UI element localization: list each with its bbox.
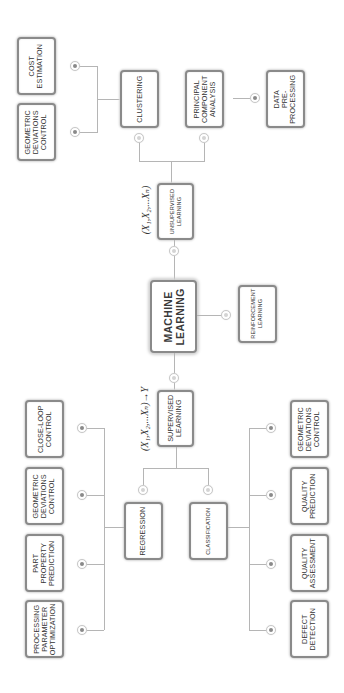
node-label: MACHINE LEARNING bbox=[162, 288, 186, 345]
connector-node-icon bbox=[77, 490, 87, 500]
node-label: QUALITY PREDICTION bbox=[301, 473, 317, 518]
node-part-property-prediction: PART PROPERTY PREDICTION bbox=[25, 534, 64, 592]
node-principal-component-analysis: PRINCIPAL COMPONENT ANALYSIS bbox=[185, 70, 224, 128]
node-label: GEOMETRIC DEVIATIONS CONTROL bbox=[24, 110, 49, 154]
node-cost-estimation: COST ESTIMATION bbox=[17, 37, 56, 95]
node-label: PART PROPERTY PREDICTION bbox=[32, 540, 57, 585]
connector-node-icon bbox=[266, 490, 276, 500]
connector-node-icon bbox=[70, 127, 80, 137]
node-label: CLOSE-LOOP CONTROL bbox=[36, 405, 52, 453]
supervised-formula: (X₁,X₂,...Xₙ)→Y bbox=[139, 381, 153, 457]
node-defect-detection: DEFECT DETECTION bbox=[290, 600, 329, 658]
connector-node-icon bbox=[134, 133, 144, 143]
node-geometric-deviations-control-classification: GEOMETRIC DEVIATIONS CONTROL bbox=[290, 400, 329, 458]
connector bbox=[139, 143, 140, 161]
node-machine-learning: MACHINE LEARNING bbox=[150, 280, 197, 353]
node-close-loop-control: CLOSE-LOOP CONTROL bbox=[25, 400, 64, 458]
connector-node-icon bbox=[199, 133, 209, 143]
node-quality-assessment: QUALITY ASSESSMENT bbox=[290, 534, 329, 592]
connector-node-icon bbox=[250, 93, 260, 103]
connector-node-icon bbox=[169, 373, 179, 383]
node-label: UNSUPERVISED LEARNING bbox=[169, 189, 182, 234]
connector bbox=[174, 353, 175, 390]
connector bbox=[249, 428, 250, 630]
ml-taxonomy-diagram: COST ESTIMATION GEOMETRIC DEVIATIONS CON… bbox=[0, 0, 344, 693]
connector bbox=[104, 527, 124, 528]
connector-node-icon bbox=[77, 559, 87, 569]
node-unsupervised-learning: UNSUPERVISED LEARNING bbox=[157, 183, 194, 240]
connector-node-icon bbox=[266, 559, 276, 569]
node-data-pre-processing: DATA PRE- PROCESSING bbox=[266, 70, 305, 128]
connector-node-icon bbox=[70, 61, 80, 71]
node-classification: CLASSIFICATION bbox=[189, 502, 228, 560]
node-label: SUPERVISED LEARNING bbox=[167, 395, 183, 442]
node-geometric-deviations-control-regression: GEOMETRIC DEVIATIONS CONTROL bbox=[25, 467, 64, 525]
connector-node-icon bbox=[77, 625, 87, 635]
connector-node-icon bbox=[138, 485, 148, 495]
connector-node-icon bbox=[221, 310, 231, 320]
connector-node-icon bbox=[169, 246, 179, 256]
connector bbox=[204, 143, 205, 161]
node-reinforcement-learning: REINFORCEMENT LEARNING bbox=[238, 285, 277, 343]
node-supervised-learning: SUPERVISED LEARNING bbox=[157, 390, 194, 447]
node-label: PROCESSING PARAMETER OPTIMIZATION bbox=[32, 603, 57, 655]
node-label: GEOMETRIC DEVIATIONS CONTROL bbox=[297, 407, 322, 451]
connector bbox=[104, 428, 105, 630]
connector-node-icon bbox=[266, 423, 276, 433]
node-geometric-deviations-control-unsupervised: GEOMETRIC DEVIATIONS CONTROL bbox=[17, 103, 56, 161]
node-label: DEFECT DETECTION bbox=[301, 608, 317, 650]
node-label: CLASSIFICATION bbox=[205, 508, 212, 555]
node-quality-prediction: QUALITY PREDICTION bbox=[290, 467, 329, 525]
node-label: QUALITY ASSESSMENT bbox=[301, 538, 317, 588]
connector-node-icon bbox=[77, 423, 87, 433]
connector bbox=[139, 161, 205, 162]
connector-node-icon bbox=[266, 625, 276, 635]
node-label: PRINCIPAL COMPONENT ANALYSIS bbox=[192, 75, 217, 123]
connector bbox=[176, 447, 177, 468]
node-label: CLUSTERING bbox=[135, 75, 143, 122]
connector bbox=[171, 161, 172, 183]
node-regression: REGRESSION bbox=[124, 502, 163, 560]
node-label: DATA PRE- PROCESSING bbox=[273, 75, 298, 124]
node-label: REINFORCEMENT LEARNING bbox=[251, 289, 264, 339]
connector bbox=[97, 99, 120, 100]
node-label: GEOMETRIC DEVIATIONS CONTROL bbox=[32, 474, 57, 518]
connector bbox=[228, 527, 249, 528]
node-label: REGRESSION bbox=[139, 507, 147, 556]
node-label: COST ESTIMATION bbox=[28, 44, 44, 88]
node-processing-parameter-optimization: PROCESSING PARAMETER OPTIMIZATION bbox=[25, 600, 64, 658]
unsupervised-formula: (X₁,X₂,...Xₙ) bbox=[140, 181, 154, 239]
node-clustering: CLUSTERING bbox=[120, 70, 159, 128]
connector-node-icon bbox=[203, 485, 213, 495]
connector bbox=[143, 468, 209, 469]
